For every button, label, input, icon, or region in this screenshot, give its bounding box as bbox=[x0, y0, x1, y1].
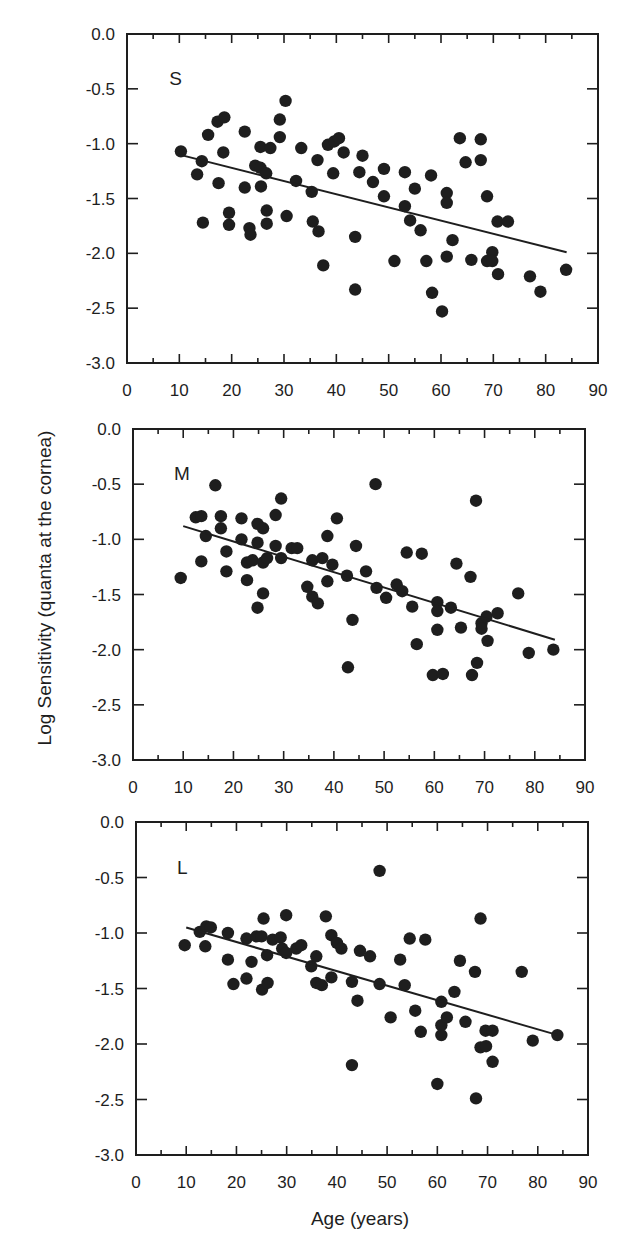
x-tick-label: 0 bbox=[131, 1173, 140, 1192]
plot-frame bbox=[136, 822, 588, 1155]
data-point bbox=[291, 542, 303, 554]
data-point bbox=[261, 204, 273, 216]
data-point bbox=[327, 167, 339, 179]
data-point bbox=[264, 142, 276, 154]
y-tick-label: -1.5 bbox=[86, 190, 115, 209]
data-point bbox=[342, 661, 354, 673]
data-point bbox=[373, 865, 385, 877]
data-point bbox=[464, 571, 476, 583]
data-point bbox=[465, 254, 477, 266]
x-tick-label: 40 bbox=[327, 381, 346, 400]
data-point bbox=[251, 602, 263, 614]
data-point bbox=[246, 554, 258, 566]
data-point bbox=[320, 910, 332, 922]
data-point bbox=[527, 1034, 539, 1046]
data-point bbox=[369, 478, 381, 490]
data-point bbox=[337, 146, 349, 158]
y-tick-label: -2.5 bbox=[95, 1091, 124, 1110]
data-point bbox=[199, 940, 211, 952]
data-point bbox=[431, 1078, 443, 1090]
data-point bbox=[321, 575, 333, 587]
data-point bbox=[454, 955, 466, 967]
data-point bbox=[441, 250, 453, 262]
x-tick-label: 70 bbox=[478, 1173, 497, 1192]
data-point bbox=[349, 231, 361, 243]
data-point bbox=[486, 1056, 498, 1068]
data-point bbox=[274, 931, 286, 943]
data-point bbox=[380, 592, 392, 604]
y-tick-label: -3.0 bbox=[92, 751, 121, 770]
x-tick-label: 80 bbox=[528, 1173, 547, 1192]
data-point bbox=[346, 1059, 358, 1071]
panel-s: 01020304050607080900.0-0.5-1.0-1.5-2.0-2… bbox=[86, 25, 608, 400]
data-point bbox=[295, 142, 307, 154]
data-point bbox=[492, 268, 504, 280]
x-tick-label: 30 bbox=[274, 778, 293, 797]
data-point bbox=[425, 169, 437, 181]
data-point bbox=[415, 1026, 427, 1038]
x-tick-label: 90 bbox=[589, 381, 608, 400]
y-tick-label: -2.0 bbox=[86, 244, 115, 263]
y-tick-label: 0.0 bbox=[100, 813, 124, 832]
y-tick-label: -2.5 bbox=[86, 299, 115, 318]
data-point bbox=[512, 587, 524, 599]
data-point bbox=[419, 933, 431, 945]
data-point bbox=[470, 1092, 482, 1104]
data-point bbox=[218, 111, 230, 123]
data-point bbox=[257, 522, 269, 534]
data-point bbox=[454, 132, 466, 144]
data-point bbox=[326, 559, 338, 571]
data-point bbox=[416, 547, 428, 559]
regression-line bbox=[183, 526, 555, 640]
y-tick-label: -0.5 bbox=[95, 869, 124, 888]
data-point bbox=[411, 638, 423, 650]
x-tick-label: 70 bbox=[484, 381, 503, 400]
data-point bbox=[404, 932, 416, 944]
data-point bbox=[470, 495, 482, 507]
data-point bbox=[274, 113, 286, 125]
data-point bbox=[257, 912, 269, 924]
data-point bbox=[367, 176, 379, 188]
figure: 01020304050607080900.0-0.5-1.0-1.5-2.0-2… bbox=[0, 0, 641, 1253]
data-point bbox=[431, 605, 443, 617]
data-point bbox=[311, 154, 323, 166]
data-point bbox=[466, 669, 478, 681]
data-point bbox=[325, 971, 337, 983]
data-point bbox=[356, 150, 368, 162]
data-point bbox=[274, 131, 286, 143]
panel-label: L bbox=[177, 857, 188, 878]
y-tick-label: -2.0 bbox=[95, 1035, 124, 1054]
panel-label: S bbox=[169, 68, 182, 89]
data-point bbox=[441, 1011, 453, 1023]
panel-l: 01020304050607080900.0-0.5-1.0-1.5-2.0-2… bbox=[95, 813, 598, 1192]
x-tick-label: 10 bbox=[177, 1173, 196, 1192]
x-tick-label: 60 bbox=[425, 778, 444, 797]
data-point bbox=[459, 1016, 471, 1028]
data-point bbox=[448, 986, 460, 998]
plot-frame bbox=[127, 34, 598, 363]
data-point bbox=[235, 512, 247, 524]
x-tick-label: 20 bbox=[227, 1173, 246, 1192]
x-tick-label: 90 bbox=[579, 1173, 598, 1192]
data-point bbox=[333, 132, 345, 144]
data-point bbox=[220, 545, 232, 557]
data-point bbox=[486, 1024, 498, 1036]
data-point bbox=[480, 1040, 492, 1052]
data-point bbox=[469, 966, 481, 978]
x-tick-label: 10 bbox=[174, 778, 193, 797]
y-tick-label: -1.5 bbox=[95, 980, 124, 999]
y-tick-label: -1.0 bbox=[95, 924, 124, 943]
data-point bbox=[317, 259, 329, 271]
data-point bbox=[269, 540, 281, 552]
data-point bbox=[471, 657, 483, 669]
x-tick-label: 10 bbox=[170, 381, 189, 400]
data-point bbox=[239, 125, 251, 137]
data-point bbox=[191, 168, 203, 180]
data-point bbox=[209, 479, 221, 491]
x-tick-label: 50 bbox=[378, 1173, 397, 1192]
data-point bbox=[560, 264, 572, 276]
data-point bbox=[257, 587, 269, 599]
data-point bbox=[295, 939, 307, 951]
x-tick-label: 80 bbox=[536, 381, 555, 400]
x-tick-label: 50 bbox=[375, 778, 394, 797]
